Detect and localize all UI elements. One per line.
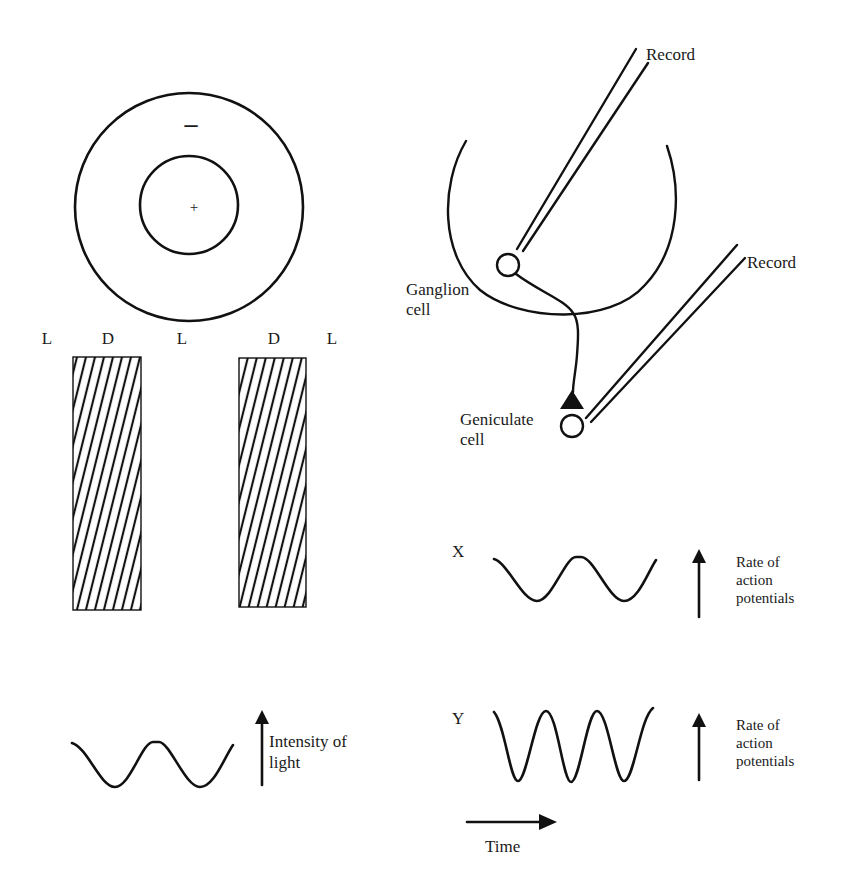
x-rate-label-line1: Rate of <box>736 554 780 570</box>
intensity-label-line1: Intensity of <box>269 732 347 751</box>
synapse-terminal <box>560 390 584 409</box>
time-label: Time <box>485 837 520 856</box>
y-cell-response: Y Rate of action potentials <box>452 708 794 782</box>
y-rate-arrow-icon <box>692 713 706 780</box>
y-cell-label: Y <box>452 709 464 728</box>
grating-label-light-1: L <box>42 329 52 348</box>
visual-physiology-diagram: – + L D L D L Intensity of light <box>0 0 845 877</box>
center-sign: + <box>190 199 198 215</box>
dark-bar-2 <box>239 358 306 607</box>
dark-bar-1 <box>73 357 141 610</box>
ganglion-cell-body <box>497 254 519 276</box>
grating-label-light-3: L <box>327 329 337 348</box>
time-axis: Time <box>467 814 557 856</box>
grating-label-light-2: L <box>177 329 187 348</box>
x-rate-arrow-icon <box>692 549 706 617</box>
intensity-arrow-icon <box>255 710 269 785</box>
light-intensity-plot: Intensity of light <box>72 710 347 787</box>
record-label-geniculate: Record <box>747 253 797 272</box>
record-label-ganglion: Record <box>646 45 696 64</box>
x-cell-response: X Rate of action potentials <box>452 542 794 617</box>
geniculate-label-line2: cell <box>460 430 485 449</box>
recording-setup: Record Record Ganglion cell Geniculate c… <box>406 45 797 449</box>
grating-label-dark-1: D <box>102 329 114 348</box>
surround-sign: – <box>184 109 199 138</box>
y-rate-label-line3: potentials <box>736 753 794 769</box>
y-cell-wave <box>494 708 653 782</box>
y-rate-label-line2: action <box>736 735 773 751</box>
grating-labels: L D L D L <box>42 329 337 348</box>
x-rate-label-line2: action <box>736 572 773 588</box>
x-cell-label: X <box>452 542 464 561</box>
y-rate-label-line1: Rate of <box>736 717 780 733</box>
x-rate-label-line3: potentials <box>736 590 794 606</box>
receptive-field: – + <box>75 93 303 321</box>
geniculate-label-line1: Geniculate <box>460 410 534 429</box>
light-intensity-wave <box>72 742 233 787</box>
geniculate-electrode <box>586 245 745 422</box>
ganglion-label-line2: cell <box>406 300 431 319</box>
time-arrow-icon <box>467 814 557 830</box>
grating-label-dark-2: D <box>268 329 280 348</box>
intensity-label-line2: light <box>269 753 300 772</box>
ganglion-axon <box>516 274 578 392</box>
retina-arc <box>448 141 676 315</box>
grating-bars <box>73 357 306 610</box>
ganglion-label-line1: Ganglion <box>406 280 470 299</box>
geniculate-cell-body <box>561 415 583 437</box>
x-cell-wave <box>494 557 656 601</box>
ganglion-electrode <box>517 49 648 251</box>
